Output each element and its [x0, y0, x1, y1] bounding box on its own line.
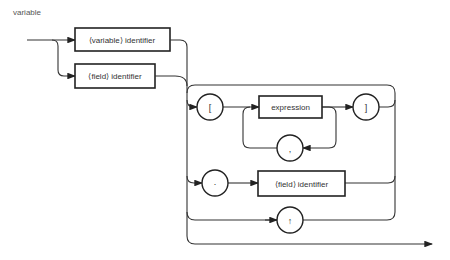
- field-identifier-select-node: ⟨field⟩ identifier: [258, 171, 345, 196]
- close-bracket-label: ]: [365, 103, 368, 113]
- up-arrow-node: ↑: [277, 207, 303, 233]
- variable-identifier-label: ⟨variable⟩ identifier: [89, 36, 156, 45]
- field-identifier-entry-node: ⟨field⟩ identifier: [75, 64, 155, 88]
- field-identifier-entry-label: ⟨field⟩ identifier: [88, 72, 141, 81]
- comma-label: ,: [289, 144, 292, 154]
- dot-label: ·: [214, 179, 217, 189]
- close-bracket-node: ]: [353, 94, 379, 120]
- field-identifier-select-label: ⟨field⟩ identifier: [275, 180, 328, 189]
- dot-node: ·: [202, 170, 228, 196]
- open-bracket-node: [: [197, 94, 223, 120]
- syntax-diagram: ⟨variable⟩ identifier ⟨field⟩ identifier…: [0, 0, 450, 260]
- comma-node: ,: [277, 135, 303, 161]
- variable-identifier-node: ⟨variable⟩ identifier: [75, 28, 170, 51]
- expression-node: expression: [259, 96, 322, 118]
- expression-label: expression: [271, 103, 310, 112]
- up-arrow-label: ↑: [288, 216, 293, 226]
- entry-connectors: [27, 40, 75, 76]
